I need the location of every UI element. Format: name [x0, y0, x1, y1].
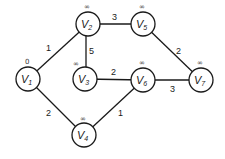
node-v6: ∞ V6 — [131, 59, 155, 92]
distance-label-v1: 0 — [25, 58, 29, 66]
node-v4: ∞ V4 — [72, 115, 96, 147]
weight-v5-v7: 2 — [176, 46, 181, 56]
node-v1: 0 V1 — [16, 58, 40, 91]
graph-diagram: 1 2 3 5 2 1 2 3 0 V1 ∞ V2 ∞ V3 ∞ V4 ∞ V5… — [0, 0, 225, 159]
node-v2: ∞ V2 — [76, 3, 100, 36]
weight-v1-v2: 1 — [46, 43, 51, 53]
distance-label-v7: ∞ — [197, 59, 203, 67]
weight-v4-v6: 1 — [118, 108, 123, 118]
node-v5: ∞ V5 — [131, 3, 155, 36]
distance-label-v5: ∞ — [139, 3, 145, 11]
distance-label-v3: ∞ — [73, 60, 79, 68]
distance-label-v4: ∞ — [80, 115, 86, 123]
edges — [28, 24, 201, 135]
distance-label-v6: ∞ — [139, 59, 145, 67]
weight-v2-v3: 5 — [89, 46, 94, 56]
distance-label-v2: ∞ — [84, 3, 90, 11]
weight-v6-v7: 3 — [170, 84, 175, 94]
edge-weights: 1 2 3 5 2 1 2 3 — [46, 12, 181, 118]
node-v3: ∞ V3 — [73, 60, 97, 91]
weight-v3-v6: 2 — [111, 67, 116, 77]
node-v7: ∞ V7 — [189, 59, 213, 92]
weight-v1-v4: 2 — [46, 108, 51, 118]
weight-v2-v5: 3 — [112, 12, 117, 22]
